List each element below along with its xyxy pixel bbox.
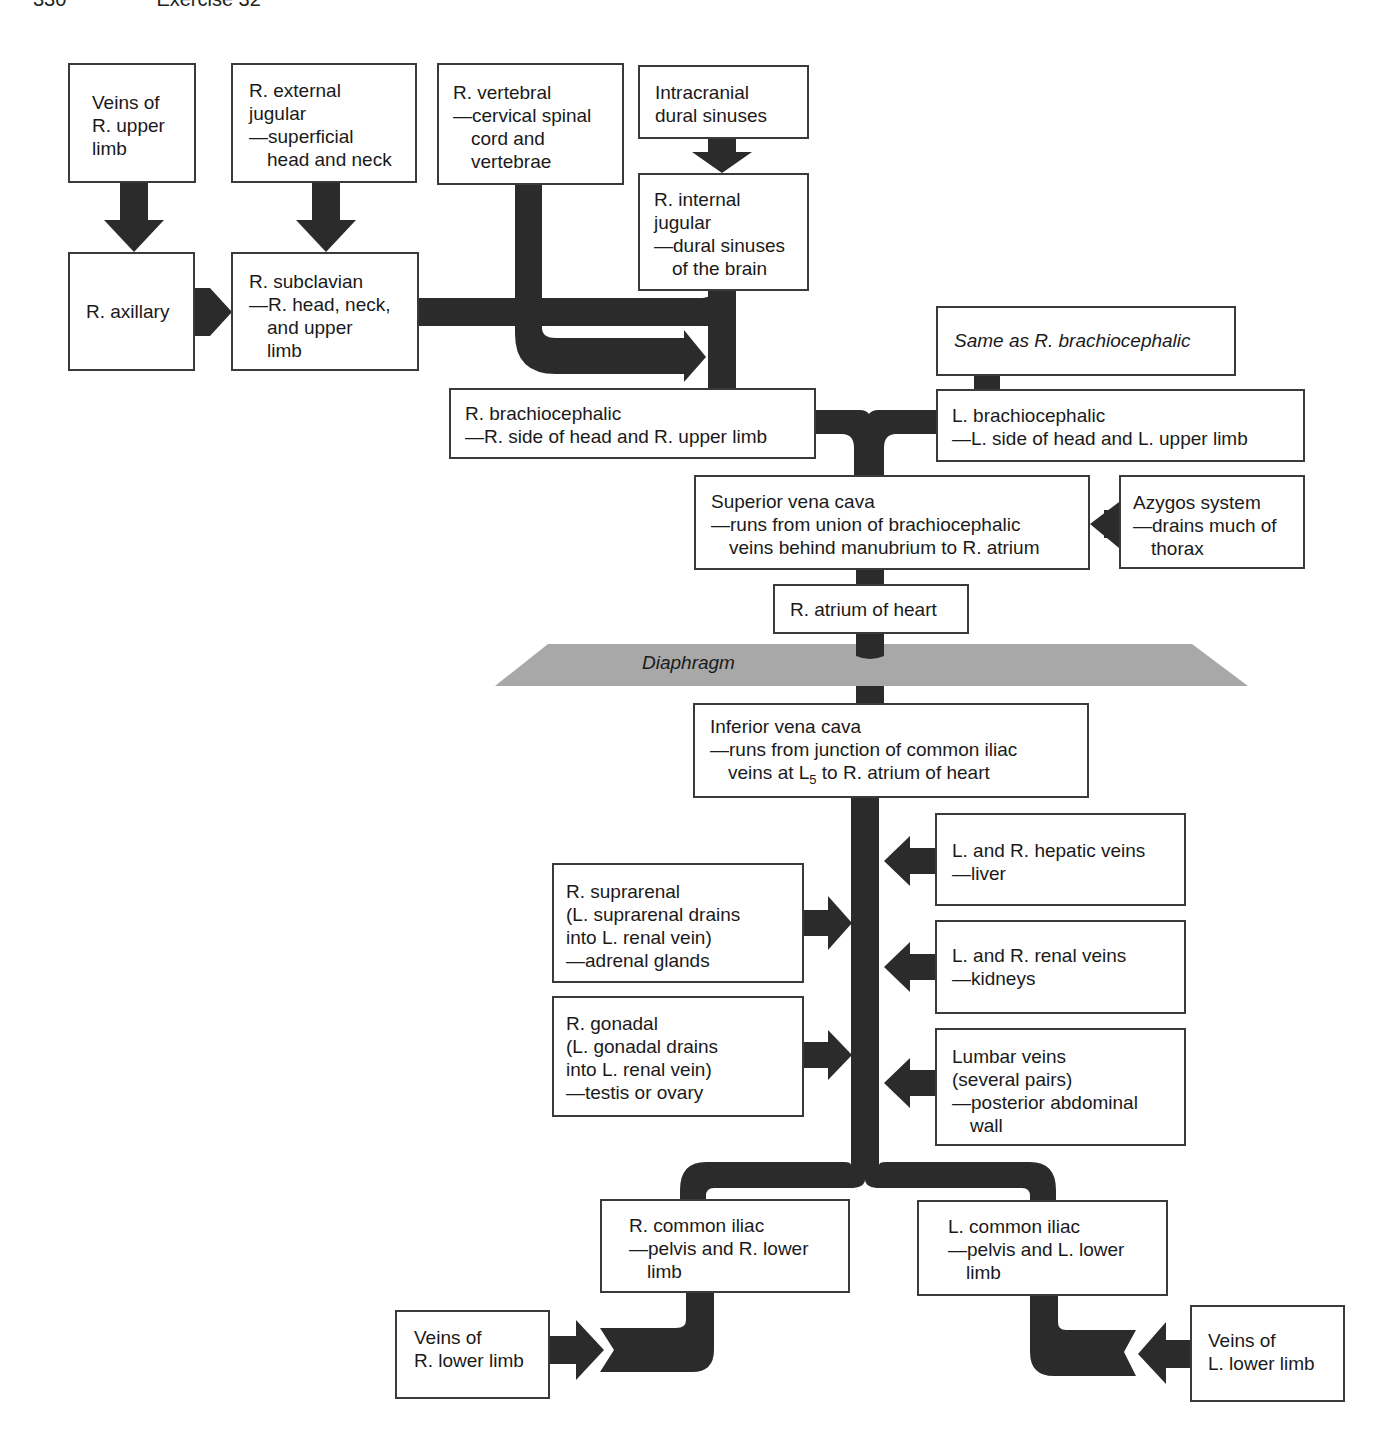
arrow-azygos-to-svc [1090,502,1120,548]
arrow-r-lower-limb [548,1320,604,1380]
arrow-axillary-to-subclavian [194,288,232,336]
box-veins-r-upper-limb: Veins of R. upper limb [68,63,196,183]
diaphragm-label: Diaphragm [642,652,735,674]
arrow-renal-to-ivc [884,942,936,992]
box-r-brachiocephalic: R. brachiocephalic —R. side of head and … [449,388,816,459]
arrow-dural-sinuses-to-int-jugular [692,138,752,173]
box-r-axillary: R. axillary [68,252,195,371]
arrow-gonadal-to-ivc [804,1030,852,1080]
vessel-atrium-through-diaphragm [856,632,884,659]
vessel-brachiocephalic-union [815,410,937,478]
box-r-vertebral: R. vertebral —cervical spinal cord and v… [437,63,624,185]
vessel-internal-jugular [708,290,736,390]
box-same-as-r-brachiocephalic: Same as R. brachiocephalic [936,306,1236,376]
box-renal-veins: L. and R. renal veins —kidneys [935,920,1186,1014]
box-l-common-iliac: L. common iliac —pelvis and L. lower lim… [917,1200,1168,1296]
box-l-brachiocephalic: L. brachiocephalic —L. side of head and … [936,389,1305,462]
arrow-ext-jugular-to-subclavian [296,182,356,252]
box-r-subclavian: R. subclavian —R. head, neck, and upper … [231,252,419,371]
box-intracranial-dural-sinuses: Intracranial dural sinuses [638,65,809,139]
box-veins-l-lower-limb: Veins of L. lower limb [1190,1305,1345,1402]
arrow-hepatic-to-ivc [884,836,936,886]
box-superior-vena-cava: Superior vena cava —runs from union of b… [694,475,1090,570]
box-r-gonadal: R. gonadal (L. gonadal drains into L. re… [552,996,804,1117]
box-hepatic-veins: L. and R. hepatic veins —liver [935,813,1186,906]
box-lumbar-veins: Lumbar veins (several pairs) —posterior … [935,1028,1186,1146]
vessel-l-lower-limb [1030,1296,1136,1376]
box-r-atrium: R. atrium of heart [773,584,969,634]
box-r-external-jugular: R. external jugular —superficial head an… [231,63,417,183]
box-inferior-vena-cava: Inferior vena cava —runs from junction o… [693,703,1089,798]
arrow-suprarenal-to-ivc [804,896,852,950]
box-azygos-system: Azygos system —drains much of thorax [1119,475,1305,569]
arrow-lumbar-to-ivc [884,1058,936,1108]
vessel-ivc-upper [856,686,884,704]
arrow-upper-limb-to-axillary [104,182,164,252]
box-r-common-iliac: R. common iliac —pelvis and R. lower lim… [600,1199,850,1293]
box-r-suprarenal: R. suprarenal (L. suprarenal drains into… [552,863,804,983]
vessel-ivc-trunk [851,796,879,1168]
box-r-internal-jugular: R. internal jugular —dural sinuses of th… [638,173,809,291]
vessel-iliac-bifurcation [680,1150,1056,1200]
vessel-left-feeder [974,376,1000,390]
box-veins-r-lower-limb: Veins of R. lower limb [395,1310,550,1399]
vessel-r-lower-limb [600,1292,714,1372]
arrow-l-lower-limb [1138,1322,1192,1384]
